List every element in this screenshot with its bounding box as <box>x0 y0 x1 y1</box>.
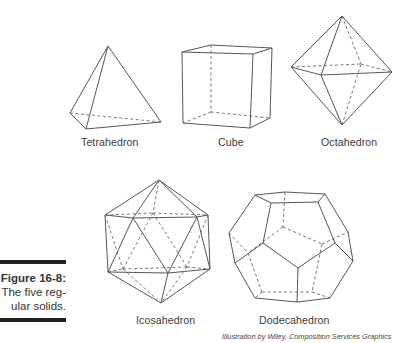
caption-line-2: ular solids. <box>0 299 66 313</box>
octahedron-drawing <box>291 16 392 125</box>
label-dodecahedron: Dodecahedron <box>259 314 330 326</box>
caption-top-rule <box>0 260 66 264</box>
tetrahedron-drawing <box>70 46 161 129</box>
label-cube: Cube <box>218 136 244 148</box>
caption-bottom-rule <box>0 318 66 322</box>
caption-line-1: The five reg- <box>0 285 66 299</box>
label-icosahedron: Icosahedron <box>136 314 195 326</box>
dodecahedron-drawing <box>229 192 353 302</box>
illustration-credit: Illustration by Wiley, Composition Servi… <box>222 332 392 341</box>
label-tetrahedron: Tetrahedron <box>81 136 138 148</box>
cube-drawing <box>182 45 272 128</box>
figure-number: Figure 16-8: <box>0 271 66 285</box>
figure-caption: Figure 16-8: The five reg- ular solids. <box>0 271 66 313</box>
icosahedron-drawing <box>105 180 210 303</box>
label-octahedron: Octahedron <box>321 136 377 148</box>
